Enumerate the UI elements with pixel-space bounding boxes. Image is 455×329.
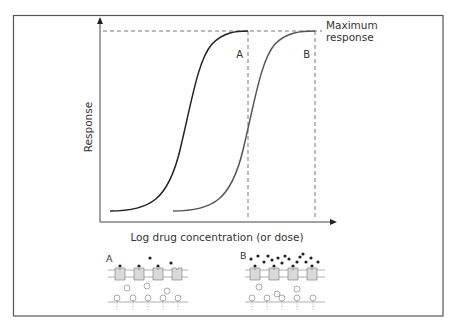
dose-response-figure: A B Maximum response Response Log drug c… xyxy=(0,0,455,329)
panel-a-label: A xyxy=(106,253,113,264)
curve-a-label: A xyxy=(236,49,243,60)
figure-frame xyxy=(14,16,444,317)
max-label-line1: Maximum xyxy=(326,19,378,31)
panel-b-label: B xyxy=(240,250,247,261)
max-label-line2: response xyxy=(326,31,374,43)
x-axis-label: Log drug concentration (or dose) xyxy=(130,231,303,243)
y-axis-label: Response xyxy=(82,102,94,152)
curve-b-label: B xyxy=(303,49,310,60)
